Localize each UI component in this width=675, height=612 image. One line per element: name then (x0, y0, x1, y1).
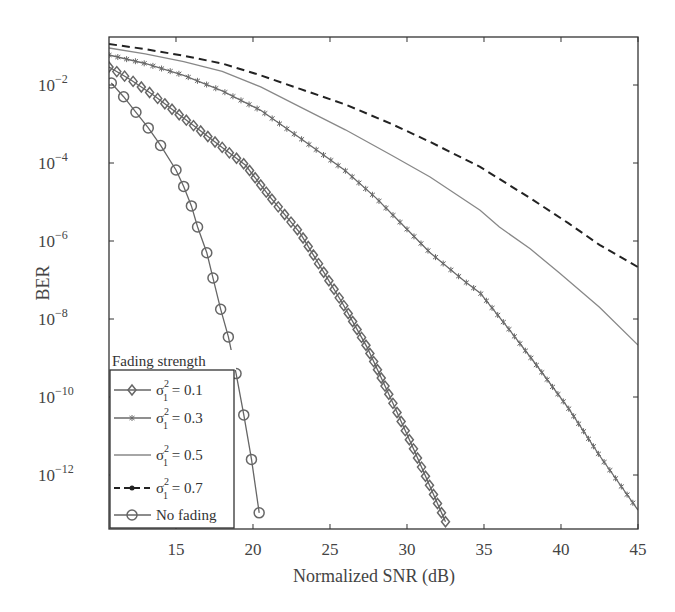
y-tick-label: 10−8 (38, 306, 68, 329)
x-axis-ticks: 15202530354045 (167, 37, 646, 559)
star-marker (284, 126, 289, 132)
legend-label: No fading (156, 507, 217, 523)
star-marker (238, 97, 243, 103)
x-tick-label: 45 (630, 540, 647, 559)
y-tick-label: 10−12 (38, 462, 74, 485)
legend-title: Fading strength (112, 353, 206, 369)
ber-chart: 15202530354045 10−210−410−610−810−1010−1… (0, 0, 675, 612)
x-tick-label: 25 (321, 540, 338, 559)
star-marker (262, 110, 267, 116)
y-tick-label: 10−10 (38, 384, 74, 407)
star-marker (277, 121, 282, 127)
star-marker (255, 106, 260, 112)
x-tick-label: 30 (398, 540, 415, 559)
dot-marker (130, 486, 135, 491)
x-axis-label: Normalized SNR (dB) (293, 566, 455, 587)
legend: Fading strength σ21 = 0.1σ21 = 0.3σ21 = … (110, 350, 236, 528)
y-axis-label: BER (33, 265, 53, 300)
star-marker (292, 131, 297, 137)
star-marker (336, 163, 341, 169)
star-marker (222, 89, 227, 95)
star-marker (247, 101, 252, 107)
star-marker (230, 93, 235, 99)
y-tick-label: 10−2 (38, 72, 68, 95)
star-marker (328, 157, 333, 163)
x-tick-label: 40 (552, 540, 569, 559)
y-tick-label: 10−6 (38, 228, 68, 251)
x-tick-label: 15 (167, 540, 184, 559)
x-tick-label: 20 (244, 540, 261, 559)
x-tick-label: 35 (475, 540, 492, 559)
y-tick-label: 10−4 (38, 150, 68, 173)
star-marker (270, 115, 275, 121)
